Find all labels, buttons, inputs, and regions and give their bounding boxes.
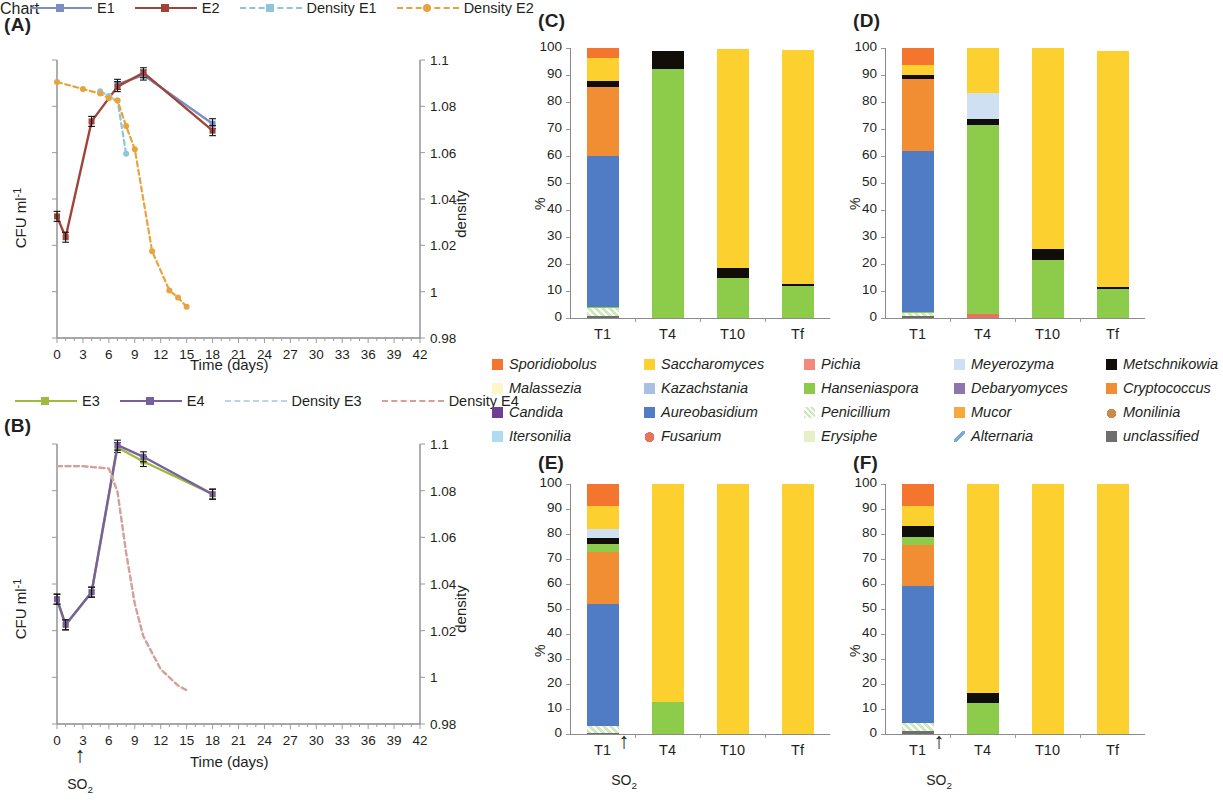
segment-saccharomyces[interactable] <box>587 58 619 81</box>
stacked-bar-T1[interactable] <box>587 48 619 318</box>
segment-saccharomyces[interactable] <box>902 506 934 526</box>
legend-item-metschnikowia: Metschnikowia <box>1106 352 1223 376</box>
segment-cryptococcus[interactable] <box>587 552 619 605</box>
marker <box>184 304 190 310</box>
segment-hanseniaspora[interactable] <box>652 702 684 734</box>
stacked-bar-T10[interactable] <box>1032 48 1064 318</box>
xtick-9: 9 <box>131 733 139 748</box>
segment-saccharomyces[interactable] <box>652 484 684 702</box>
x-category-T4: T4 <box>957 326 1009 342</box>
legend-item-density-e1: Density E1 <box>240 0 377 16</box>
xtick-6: 6 <box>105 733 113 748</box>
stacked-bar-T10[interactable] <box>1032 484 1064 734</box>
segment-saccharomyces[interactable] <box>587 506 619 529</box>
segment-unclassified[interactable] <box>902 316 934 318</box>
segment-metschnikowia[interactable] <box>902 75 934 79</box>
segment-saccharomyces[interactable] <box>717 49 749 267</box>
y-tick <box>566 318 570 319</box>
segment-saccharomyces[interactable] <box>782 484 814 734</box>
stacked-bar-Tf[interactable] <box>1097 484 1129 734</box>
stacked-bar-T4[interactable] <box>652 484 684 734</box>
y-tick-label-80: 80 <box>847 93 877 108</box>
segment-saccharomyces[interactable] <box>1032 48 1064 249</box>
segment-hanseniaspora[interactable] <box>587 544 619 552</box>
segment-sporidiobolus[interactable] <box>902 484 934 506</box>
stacked-bar-T1[interactable] <box>902 48 934 318</box>
segment-penicillium[interactable] <box>587 726 619 733</box>
segment-hanseniaspora[interactable] <box>717 278 749 318</box>
segment-saccharomyces[interactable] <box>967 48 999 93</box>
segment-saccharomyces[interactable] <box>1097 484 1129 734</box>
segment-saccharomyces[interactable] <box>1097 51 1129 287</box>
stacked-bar-T4[interactable] <box>967 484 999 734</box>
segment-meyerozyma[interactable] <box>967 93 999 119</box>
segment-saccharomyces[interactable] <box>717 484 749 734</box>
stacked-bar-T4[interactable] <box>652 48 684 318</box>
y-tick-label-70: 70 <box>532 550 562 565</box>
segment-metschnikowia[interactable] <box>717 268 749 278</box>
segment-saccharomyces[interactable] <box>967 484 999 693</box>
segment-fusarium[interactable] <box>967 314 999 318</box>
segment-hanseniaspora[interactable] <box>902 312 934 313</box>
segment-metschnikowia[interactable] <box>782 284 814 286</box>
segment-hanseniaspora[interactable] <box>587 307 619 308</box>
legend-item-malassezia: Malassezia <box>492 376 644 400</box>
segment-cryptococcus[interactable] <box>587 87 619 156</box>
so2-arrow-icon: ↑ <box>602 734 646 748</box>
segment-saccharomyces[interactable] <box>902 65 934 75</box>
segment-aureobasidium[interactable] <box>587 156 619 307</box>
segment-penicillium[interactable] <box>587 308 619 316</box>
segment-hanseniaspora[interactable] <box>782 286 814 318</box>
y-tick-label-100: 100 <box>847 39 877 54</box>
series-e4 <box>57 445 213 625</box>
legend-swatch-mucor <box>954 407 965 418</box>
stacked-bar-Tf[interactable] <box>1097 48 1129 318</box>
stacked-bar-Tf[interactable] <box>782 484 814 734</box>
segment-hanseniaspora[interactable] <box>902 537 934 546</box>
segment-hanseniaspora[interactable] <box>967 703 999 734</box>
segment-metschnikowia[interactable] <box>587 81 619 87</box>
stacked-bar-T10[interactable] <box>717 484 749 734</box>
segment-saccharomyces[interactable] <box>1032 484 1064 734</box>
y-tick <box>566 129 570 130</box>
segment-hanseniaspora[interactable] <box>1097 289 1129 318</box>
stacked-bar-T10[interactable] <box>717 48 749 318</box>
segment-metschnikowia[interactable] <box>587 538 619 544</box>
segment-metschnikowia[interactable] <box>1097 287 1129 289</box>
segment-saccharomyces[interactable] <box>782 50 814 284</box>
panel-d-tag: (D) <box>853 10 880 32</box>
y-tick <box>881 75 885 76</box>
stacked-bar-T1[interactable] <box>902 484 934 734</box>
segment-sporidiobolus[interactable] <box>587 484 619 506</box>
segment-penicillium[interactable] <box>902 723 934 731</box>
segment-metschnikowia[interactable] <box>902 526 934 537</box>
segment-aureobasidium[interactable] <box>587 604 619 726</box>
legend-label-e1: E1 <box>97 0 115 16</box>
stacked-bar-T1[interactable] <box>587 484 619 734</box>
segment-unclassified[interactable] <box>587 316 619 318</box>
y-tick-label-90: 90 <box>847 500 877 515</box>
y-tick <box>881 183 885 184</box>
segment-metschnikowia[interactable] <box>967 693 999 703</box>
marker <box>106 95 112 101</box>
stacked-bar-T4[interactable] <box>967 48 999 318</box>
segment-sporidiobolus[interactable] <box>902 48 934 65</box>
segment-cryptococcus[interactable] <box>902 79 934 151</box>
segment-metschnikowia[interactable] <box>967 119 999 125</box>
y-tick <box>566 102 570 103</box>
segment-penicillium[interactable] <box>902 313 934 316</box>
segment-cryptococcus[interactable] <box>902 545 934 585</box>
segment-aureobasidium[interactable] <box>902 151 934 312</box>
segment-sporidiobolus[interactable] <box>587 48 619 58</box>
stacked-bar-Tf[interactable] <box>782 48 814 318</box>
legend-swatch-density-e4 <box>382 394 444 408</box>
segment-aureobasidium[interactable] <box>902 586 934 724</box>
segment-metschnikowia[interactable] <box>1032 249 1064 261</box>
panel-e: (E) % 0102030405060708090100T1T4T10Tf ↑ … <box>520 452 840 802</box>
segment-hanseniaspora[interactable] <box>652 69 684 318</box>
segment-meyerozyma[interactable] <box>587 529 619 537</box>
segment-hanseniaspora[interactable] <box>1032 260 1064 318</box>
segment-metschnikowia[interactable] <box>652 51 684 70</box>
segment-hanseniaspora[interactable] <box>967 125 999 314</box>
xtick-27: 27 <box>283 347 298 362</box>
